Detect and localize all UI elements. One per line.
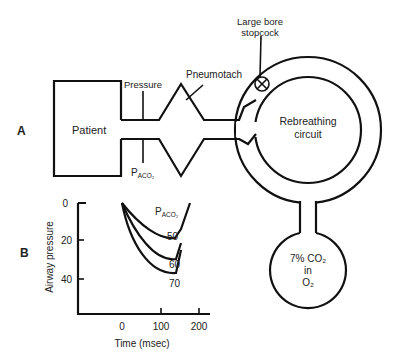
neck-mask — [299, 198, 317, 234]
curve-label-70: 70 — [169, 278, 181, 289]
x-tick-label-0: 0 — [119, 321, 125, 332]
chart-axes — [78, 203, 210, 314]
circuit-label-1: Rebreathing — [279, 115, 336, 127]
y-tick-label-40: 40 — [61, 274, 73, 285]
bag-label-2: in — [304, 265, 312, 276]
figure: A Patient Pressure PACO₂ Pneumotach Rebr… — [0, 0, 396, 356]
tube-lower-wall — [121, 139, 240, 176]
stopcock-label-2: stopcock — [241, 27, 279, 38]
stopcock-leader — [260, 36, 261, 77]
bag-label-1: 7% CO₂ — [290, 253, 326, 264]
bag-label-3: O₂ — [302, 277, 314, 288]
y-tick-label-0: 0 — [62, 198, 68, 209]
y-axis-title: Airway pressure — [44, 221, 55, 293]
paco2-label: PACO₂ — [131, 167, 155, 179]
connector-upper — [239, 100, 256, 120]
patient-label: Patient — [72, 124, 106, 136]
panel-b-label: B — [20, 246, 29, 260]
pneumotach-leader — [186, 85, 203, 100]
legend-title: PACO₂ — [155, 206, 179, 218]
pneumotach-label: Pneumotach — [186, 69, 242, 80]
pressure-label: Pressure — [124, 79, 162, 90]
panel-a-label: A — [17, 124, 26, 138]
x-tick-label-100: 100 — [153, 321, 170, 332]
x-axis-title: Time (msec) — [114, 338, 169, 349]
x-tick-label-200: 200 — [191, 321, 208, 332]
stopcock-label-1: Large bore — [237, 16, 283, 27]
curve-label-50: 50 — [167, 231, 179, 242]
y-tick-label-20: 20 — [61, 235, 73, 246]
curve-label-60: 60 — [169, 259, 181, 270]
circuit-label-2: circuit — [294, 128, 322, 140]
